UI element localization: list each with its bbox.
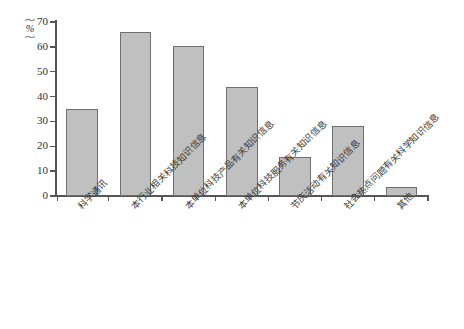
y-axis-tick: [50, 71, 56, 72]
x-axis-tick: [161, 196, 162, 201]
y-axis-tick-label: 40: [20, 91, 48, 102]
x-axis-tick: [57, 196, 58, 201]
y-axis-tick: [50, 170, 56, 171]
x-axis-tick: [374, 196, 375, 201]
y-axis-tick-label: 0: [20, 190, 48, 201]
y-axis-tick-label: 50: [20, 66, 48, 77]
x-axis-tick: [268, 196, 269, 201]
y-axis-tick-label: 30: [20, 115, 48, 126]
bar: [66, 109, 98, 196]
y-axis-tick: [50, 46, 56, 47]
x-axis-tick: [108, 196, 109, 201]
y-axis-tick: [50, 121, 56, 122]
y-axis-tick-label: 20: [20, 140, 48, 151]
x-axis-tick: [215, 196, 216, 201]
x-axis-tick: [427, 196, 428, 201]
y-axis-tick-label: 70: [20, 16, 48, 27]
x-axis-tick: [321, 196, 322, 201]
bar-chart-figure: ~ % ~ 010203040506070 科学通讯本行业相关科技知识信息本单位…: [0, 0, 464, 329]
y-axis-tick: [50, 195, 56, 196]
y-axis-tick: [50, 146, 56, 147]
y-axis-tick: [50, 21, 56, 22]
bar: [173, 46, 205, 196]
y-axis-tick-label: 60: [20, 41, 48, 52]
bar: [120, 32, 152, 196]
y-axis-tick: [50, 96, 56, 97]
y-axis-tick-label: 10: [20, 165, 48, 176]
